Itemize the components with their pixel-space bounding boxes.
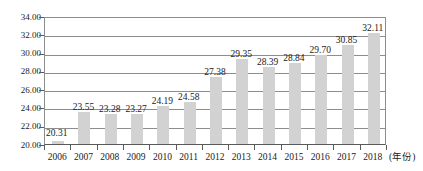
y-axis-tick-label: 20.00: [0, 141, 41, 150]
x-axis-tick-mark: [70, 145, 71, 150]
x-axis-tick-mark: [281, 145, 282, 150]
x-axis-tick-mark: [333, 145, 334, 150]
bar-chart-figure: 34.0032.0030.0028.0026.0024.0022.0020.00…: [0, 0, 423, 171]
bar: [315, 55, 327, 144]
bar-value-label: 20.31: [46, 128, 76, 138]
bar-value-label: 30.85: [332, 35, 362, 45]
x-axis-tick-mark: [386, 145, 387, 150]
bar: [342, 45, 354, 144]
x-axis-tick-mark: [176, 145, 177, 150]
bar: [131, 114, 143, 144]
bar: [52, 141, 64, 144]
x-axis-tick-mark: [123, 145, 124, 150]
y-axis-tick-label: 24.00: [0, 104, 41, 113]
chart-title: [0, 0, 423, 3]
y-axis-tick-label: 26.00: [0, 86, 41, 95]
x-axis-tick-mark: [149, 145, 150, 150]
x-axis-tick-mark: [228, 145, 229, 150]
bar: [263, 67, 275, 144]
x-axis-unit-label: (年份): [389, 152, 415, 163]
x-axis-tick-mark: [97, 145, 98, 150]
y-axis-tick-label: 30.00: [0, 49, 41, 58]
x-axis-tick-mark: [254, 145, 255, 150]
bar: [368, 33, 380, 144]
bar: [184, 102, 196, 144]
bar: [105, 114, 117, 144]
bar-value-label: 29.70: [305, 45, 335, 55]
x-axis-tick-label: 2018: [358, 152, 388, 163]
y-axis-tick-label: 22.00: [0, 122, 41, 131]
x-axis-tick-mark: [202, 145, 203, 150]
bar-value-label: 27.38: [200, 67, 230, 77]
bar-value-label: 32.11: [358, 23, 388, 33]
bar: [289, 63, 301, 144]
bar: [236, 59, 248, 144]
x-axis-tick-mark: [44, 145, 45, 150]
y-axis-tick-label: 32.00: [0, 31, 41, 40]
bar: [210, 77, 222, 144]
y-axis-tick-label: 28.00: [0, 67, 41, 76]
bar: [157, 106, 169, 144]
x-axis-tick-mark: [360, 145, 361, 150]
bar: [78, 112, 90, 144]
bar-value-label: 24.58: [174, 92, 204, 102]
y-axis-tick-label: 34.00: [0, 13, 41, 22]
x-axis-tick-mark: [307, 145, 308, 150]
